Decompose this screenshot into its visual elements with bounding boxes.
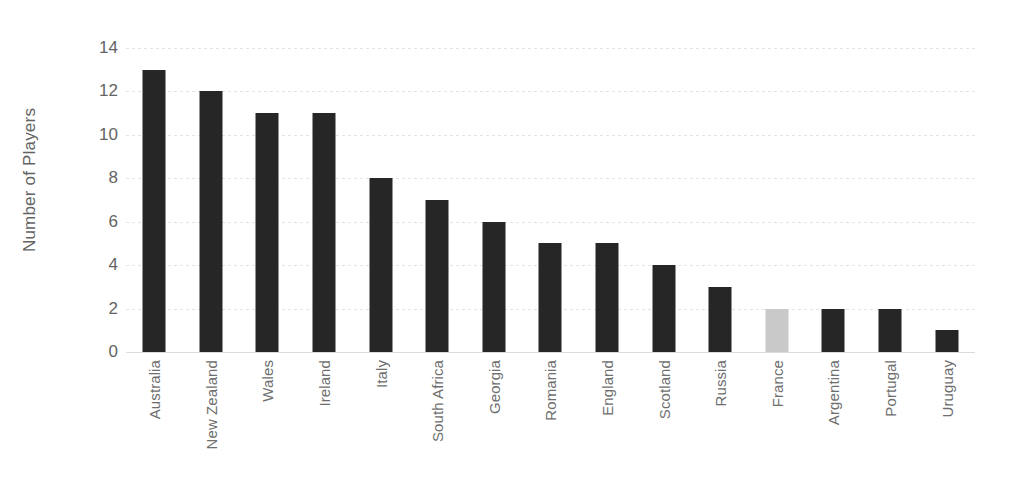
y-axis-tick-labels: 02468101214 <box>60 0 118 502</box>
bar-slot <box>126 48 183 352</box>
axis-baseline <box>126 352 975 353</box>
y-axis-tick-label: 12 <box>78 81 118 101</box>
bar-slot <box>352 48 409 352</box>
y-axis-tick-label: 14 <box>78 38 118 58</box>
bar[interactable] <box>822 309 845 352</box>
bar[interactable] <box>199 91 222 352</box>
x-axis-category-label: England <box>599 360 616 416</box>
y-axis-tick-label: 6 <box>78 212 118 232</box>
bar-slot <box>862 48 919 352</box>
x-axis-label-slot: Scotland <box>635 356 692 502</box>
x-axis-category-label: Russia <box>712 360 729 406</box>
x-axis-category-label: Ireland <box>316 360 333 407</box>
x-axis-category-label: Scotland <box>655 360 672 419</box>
bar-slot <box>409 48 466 352</box>
x-axis-label-slot: Russia <box>692 356 749 502</box>
plot-area <box>126 48 975 352</box>
bar-slot <box>183 48 240 352</box>
y-axis-tick-label: 2 <box>78 299 118 319</box>
bar-slot <box>805 48 862 352</box>
x-axis-category-label: Italy <box>372 360 389 388</box>
x-axis-category-label: France <box>768 360 785 407</box>
x-axis-label-slot: France <box>749 356 806 502</box>
bar-slot <box>918 48 975 352</box>
x-axis-label-slot: Romania <box>522 356 579 502</box>
x-axis-label-slot: Georgia <box>466 356 523 502</box>
x-axis-label-slot: Ireland <box>296 356 353 502</box>
bar[interactable] <box>256 113 279 352</box>
bar[interactable] <box>596 243 619 352</box>
bar[interactable] <box>765 309 788 352</box>
bar[interactable] <box>313 113 336 352</box>
x-axis-label-slot: Argentina <box>805 356 862 502</box>
bar[interactable] <box>426 200 449 352</box>
y-axis-tick-label: 0 <box>78 342 118 362</box>
bar-slot <box>296 48 353 352</box>
x-axis-category-labels: AustraliaNew ZealandWalesIrelandItalySou… <box>126 356 975 502</box>
bar-slot <box>239 48 296 352</box>
bar-slot <box>749 48 806 352</box>
bar[interactable] <box>652 265 675 352</box>
bar-slot <box>692 48 749 352</box>
y-axis-title-text: Number of Players <box>20 108 40 252</box>
bar-chart: Number of Players 02468101214 AustraliaN… <box>0 0 1027 502</box>
bar[interactable] <box>369 178 392 352</box>
y-axis-tick-label: 4 <box>78 255 118 275</box>
x-axis-category-label: Portugal <box>882 360 899 417</box>
x-axis-category-label: Australia <box>146 360 163 419</box>
bar[interactable] <box>709 287 732 352</box>
bar-slot <box>522 48 579 352</box>
bar-series <box>126 48 975 352</box>
x-axis-label-slot: England <box>579 356 636 502</box>
bar[interactable] <box>482 222 505 352</box>
x-axis-category-label: Wales <box>259 360 276 402</box>
bar[interactable] <box>539 243 562 352</box>
y-axis-title: Number of Players <box>0 0 60 360</box>
bar[interactable] <box>879 309 902 352</box>
x-axis-category-label: Georgia <box>485 360 502 414</box>
x-axis-category-label: Argentina <box>825 360 842 425</box>
x-axis-label-slot: Italy <box>352 356 409 502</box>
x-axis-label-slot: Australia <box>126 356 183 502</box>
x-axis-label-slot: Portugal <box>862 356 919 502</box>
x-axis-label-slot: Wales <box>239 356 296 502</box>
x-axis-label-slot: Uruguay <box>918 356 975 502</box>
x-axis-category-label: Romania <box>542 360 559 421</box>
bar-slot <box>466 48 523 352</box>
bar-slot <box>635 48 692 352</box>
x-axis-category-label: New Zealand <box>202 360 219 449</box>
bar[interactable] <box>935 330 958 352</box>
x-axis-label-slot: South Africa <box>409 356 466 502</box>
bar-slot <box>579 48 636 352</box>
y-axis-tick-label: 8 <box>78 168 118 188</box>
x-axis-label-slot: New Zealand <box>183 356 240 502</box>
x-axis-category-label: South Africa <box>429 360 446 442</box>
bar[interactable] <box>143 70 166 352</box>
x-axis-category-label: Uruguay <box>938 360 955 417</box>
y-axis-tick-label: 10 <box>78 125 118 145</box>
